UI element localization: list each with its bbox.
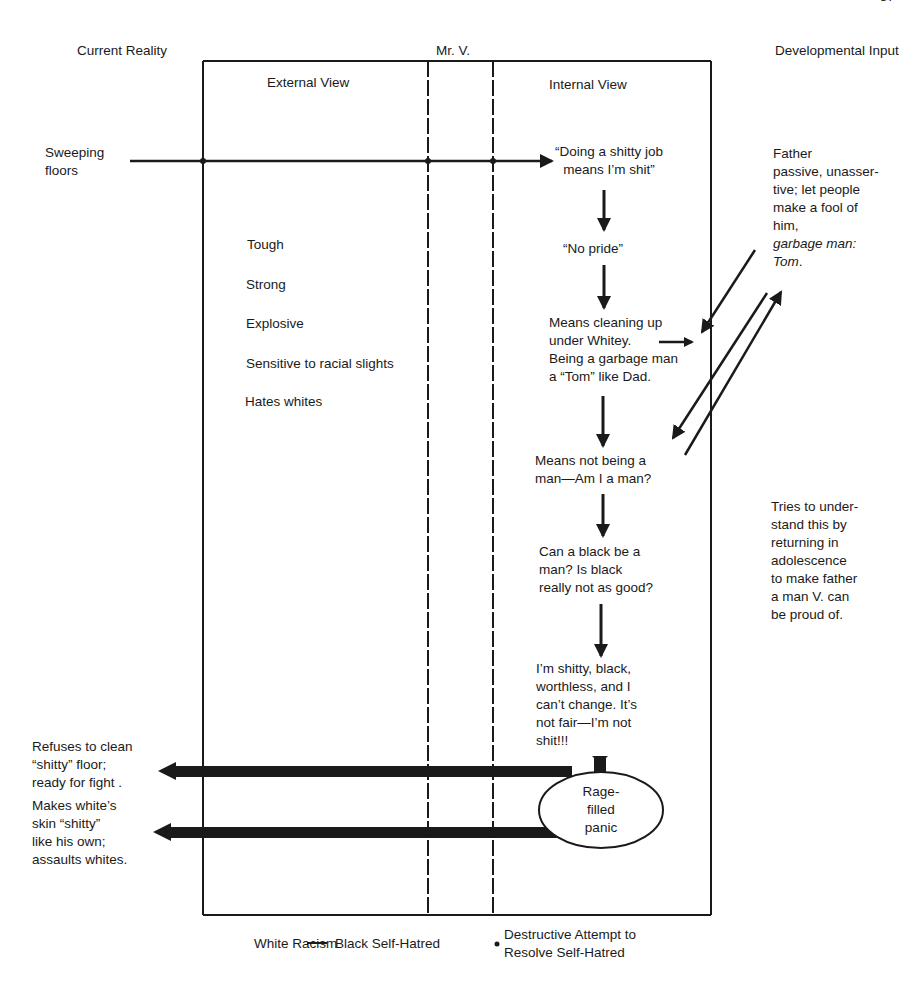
trait-hates-whites: Hates whites bbox=[245, 393, 322, 411]
trait-tough: Tough bbox=[247, 236, 284, 254]
internal-step-3: Means cleaning up under Whitey. Being a … bbox=[549, 314, 678, 386]
father-period: . bbox=[799, 254, 803, 269]
trait-explosive: Explosive bbox=[246, 315, 304, 333]
father-garbage-man: garbage man: Tom. bbox=[773, 235, 856, 271]
column-external-view: External View bbox=[267, 74, 349, 92]
trait-strong: Strong bbox=[246, 276, 286, 294]
father-description: Father passive, unasser- tive; let peopl… bbox=[773, 145, 879, 235]
developmental-arrows bbox=[673, 250, 781, 455]
stimulus-label: Sweeping floors bbox=[45, 144, 104, 180]
ellipse-label: Rage- filled panic bbox=[561, 783, 641, 837]
rage-arrows bbox=[153, 756, 608, 841]
internal-step-1: “Doing a shitty job means I’m shit” bbox=[548, 143, 670, 179]
adolescence-note: Tries to under- stand this by returning … bbox=[771, 498, 858, 624]
trait-sensitive: Sensitive to racial slights bbox=[246, 355, 394, 373]
internal-step-6: I’m shitty, black, worthless, and I can’… bbox=[536, 660, 637, 750]
internal-step-4: Means not being a man—Am I a man? bbox=[535, 452, 651, 488]
column-internal-view: Internal View bbox=[549, 76, 627, 94]
response-assaults: Makes white’s skin “shitty” like his own… bbox=[32, 797, 127, 869]
footer-destructive-attempt: Destructive Attempt to Resolve Self-Hatr… bbox=[504, 926, 636, 962]
header-current-reality: Current Reality bbox=[77, 42, 167, 60]
response-refuses: Refuses to clean “shitty” floor; ready f… bbox=[32, 738, 133, 792]
header-mr-v: Mr. V. bbox=[436, 42, 470, 60]
page-number: 87 bbox=[880, 0, 894, 6]
header-developmental-input: Developmental Input bbox=[775, 42, 899, 60]
footer-white-racism: White Racism bbox=[254, 935, 337, 953]
internal-step-2: “No pride” bbox=[563, 240, 623, 258]
father-garbage-man-italic: garbage man: Tom bbox=[773, 236, 856, 269]
footer-black-self-hatred: Black Self-Hatred bbox=[335, 935, 440, 953]
internal-step-5: Can a black be a man? Is black really no… bbox=[539, 543, 653, 597]
